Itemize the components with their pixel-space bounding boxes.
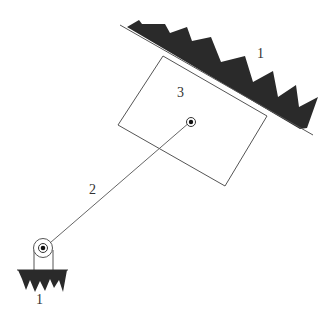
inclined-ground-line: [120, 25, 313, 135]
mechanism-diagram: 1 3 2 1: [0, 0, 335, 318]
inclined-ground: [120, 20, 318, 135]
label-ground-top: 1: [257, 46, 264, 61]
label-block: 3: [177, 85, 184, 100]
label-link: 2: [89, 182, 96, 197]
connecting-link: [43, 122, 190, 249]
ground-pivot-hatch: [18, 270, 67, 292]
inclined-ground-hatch: [127, 20, 318, 129]
block-pivot-joint: [187, 118, 196, 127]
ground-pivot-support: [17, 239, 68, 293]
label-ground-bottom: 1: [36, 292, 43, 307]
ground-pivot-pin: [41, 246, 46, 251]
